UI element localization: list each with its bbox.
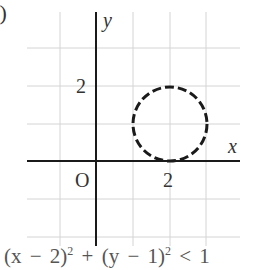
y-axis-label: y <box>101 9 112 32</box>
y-tick-label: 2 <box>76 75 86 97</box>
inequality-label: (x − 2)2 + (y − 1)2 < 1 <box>4 244 210 269</box>
coordinate-plane: y x 2 2 O <box>0 0 254 270</box>
part-label: .) <box>0 0 7 26</box>
x-tick-label: 2 <box>163 169 173 191</box>
coordinate-figure: .) y x 2 2 O (x − 2)2 + (y − 1)2 < 1 <box>0 0 254 270</box>
origin-label: O <box>75 169 89 191</box>
inequality-relation: < 1 <box>171 244 210 268</box>
x-axis-label: x <box>227 135 237 157</box>
inequality-op: + <box>73 244 101 268</box>
inequality-term1: (x − 2) <box>4 244 67 268</box>
inequality-term2: (y − 1) <box>102 244 165 268</box>
